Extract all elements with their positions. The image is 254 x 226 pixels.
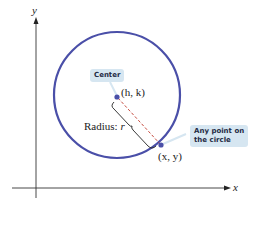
radius-label-var: r <box>120 120 124 132</box>
y-axis-arrow-icon <box>34 17 39 24</box>
x-axis-arrow-icon <box>224 186 231 191</box>
center-point <box>114 94 119 99</box>
radius-label-prefix: Radius: <box>84 120 120 132</box>
center-callout-pointer <box>110 82 117 96</box>
center-callout: Center <box>90 69 124 82</box>
circle-point-callout-line2: the circle <box>194 136 244 145</box>
circle-point-callout: Any point on the circle <box>190 125 248 147</box>
circle-point-label: (x, y) <box>158 150 182 162</box>
y-axis-label: y <box>32 4 37 16</box>
circle-point-callout-line1: Any point on <box>194 127 244 136</box>
circle-diagram <box>0 0 254 226</box>
x-axis-label: x <box>233 181 238 193</box>
radius-label: Radius: r <box>84 120 125 132</box>
center-label: (h, k) <box>121 86 145 98</box>
circle-point <box>158 142 163 147</box>
